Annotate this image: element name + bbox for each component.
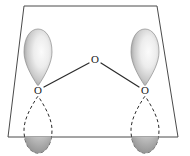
bond-center-right (101, 63, 139, 87)
p-orbital-right-upper-lobe (131, 29, 159, 86)
p-orbital-left-lower-cap (24, 96, 52, 153)
ozone-orbital-figure: O O O (0, 0, 190, 156)
orbital-diagram: O O O (0, 0, 190, 156)
bond-left-center (44, 63, 89, 87)
atom-label-o-right: O (141, 84, 149, 96)
atom-label-o-left: O (34, 84, 42, 96)
p-orbital-left-upper-lobe (24, 29, 52, 86)
atom-label-o-center: O (91, 53, 99, 65)
p-orbital-right-lower-cap (131, 96, 159, 153)
